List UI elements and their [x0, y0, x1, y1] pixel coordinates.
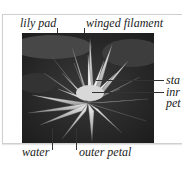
- leader-outer-petal: [76, 128, 77, 150]
- water-lily-image: [22, 33, 154, 143]
- water-lily-photo: [22, 33, 154, 143]
- label-winged-filament: winged filament: [86, 17, 163, 29]
- leader-stamen-ext: [154, 80, 164, 81]
- label-lily-pad: lily pad: [20, 17, 56, 29]
- label-outer-petal: outer petal: [79, 146, 131, 158]
- label-inner-petal-line2: pet: [166, 97, 181, 109]
- leader-stamen: [96, 80, 154, 81]
- label-water: water: [22, 146, 49, 158]
- leader-inner-petal: [92, 92, 154, 93]
- leader-water: [52, 128, 53, 150]
- leader-inner-petal-ext: [154, 92, 164, 93]
